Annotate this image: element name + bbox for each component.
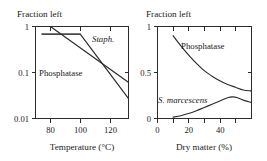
panel-left-ytick-3: 0.01	[14, 114, 29, 124]
panel-right-svg: Fraction left 1 0.5 0	[133, 0, 267, 161]
figure-root: Fraction left 1 0.1 0.01	[0, 0, 267, 161]
panel-right-ytick-1: 1	[147, 22, 151, 32]
series-label-phosphatase-right: Phosphatase	[181, 41, 225, 51]
panel-dry-matter: Fraction left 1 0.5 0	[133, 0, 267, 161]
series-label-s-marcescens: S. marcescens	[158, 95, 208, 105]
panel-right-top-label: Fraction left	[146, 9, 192, 19]
series-label-staph: Staph.	[92, 34, 114, 44]
panel-right-xtick-0: 0	[155, 125, 159, 135]
panel-left-xtick-80: 80	[46, 125, 55, 135]
panel-right-ytick-0: 0	[147, 114, 151, 124]
panel-temperature: Fraction left 1 0.1 0.01	[0, 0, 133, 161]
panel-left-ytick-1: 1	[25, 22, 29, 32]
panel-left-xtick-120: 120	[104, 125, 117, 135]
panel-left-top-label: Fraction left	[17, 9, 63, 19]
panel-left-ytick-2: 0.1	[18, 68, 29, 78]
panel-right-ytick-05: 0.5	[140, 68, 151, 78]
panel-left-xlabel: Temperature (°C)	[50, 142, 115, 152]
panel-right-xtick-20: 20	[185, 125, 194, 135]
panel-right-xlabel: Dry matter (%)	[176, 142, 232, 152]
panel-left-svg: Fraction left 1 0.1 0.01	[0, 0, 133, 161]
series-label-phosphatase-left: Phosphatase	[39, 68, 83, 78]
panel-left-xtick-100: 100	[74, 125, 87, 135]
panel-right-xtick-40: 40	[216, 125, 225, 135]
